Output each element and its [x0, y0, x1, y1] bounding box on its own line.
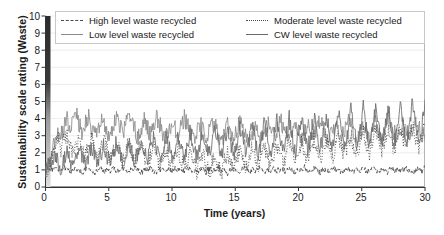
legend-item-moderate-level: Moderate level waste recycled: [246, 14, 402, 28]
legend-label: Low level waste recycled: [89, 28, 194, 42]
legend-label: CW level waste recycled: [274, 28, 377, 42]
legend-item-cw-level: CW level waste recycled: [246, 28, 402, 42]
legend-label: Moderate level waste recycled: [274, 14, 402, 28]
legend-key-dashed-icon: [61, 16, 83, 26]
legend-key-solid-icon: [61, 30, 83, 40]
data-series-group: [46, 99, 426, 180]
chart-legend: High level waste recycled Low level wast…: [55, 11, 425, 44]
chart-figure: Sustainability scale rating (Waste) 10 9…: [0, 0, 444, 235]
series-line: [46, 165, 426, 176]
legend-key-dotted-icon: [246, 16, 268, 26]
legend-label: High level waste recycled: [89, 14, 196, 28]
legend-item-low-level: Low level waste recycled: [61, 28, 196, 42]
legend-key-solid-icon: [246, 30, 268, 40]
legend-item-high-level: High level waste recycled: [61, 14, 196, 28]
